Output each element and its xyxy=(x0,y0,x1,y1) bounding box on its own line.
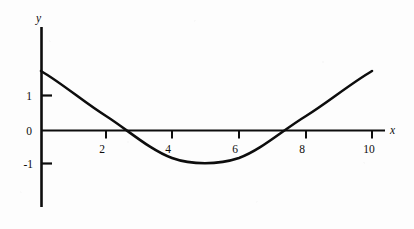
y-tick-label-1: 1 xyxy=(26,90,32,102)
x-axis-label: x xyxy=(389,124,396,136)
x-tick-label-8: 8 xyxy=(299,143,305,155)
x-tick-label-2: 2 xyxy=(99,143,105,155)
x-tick-label-6: 6 xyxy=(232,143,238,155)
parabola-curve xyxy=(41,71,372,163)
x-tick-label-4: 4 xyxy=(165,143,171,155)
figure-container: 2 4 6 8 10 1 0 -1 x y xyxy=(0,0,414,229)
y-tick-label-0: 0 xyxy=(26,125,32,137)
parabola-plot: 2 4 6 8 10 1 0 -1 x y xyxy=(0,0,414,229)
y-tick-label-minus-1: -1 xyxy=(23,158,33,170)
y-axis-label: y xyxy=(35,12,42,25)
x-tick-label-10: 10 xyxy=(363,143,375,155)
